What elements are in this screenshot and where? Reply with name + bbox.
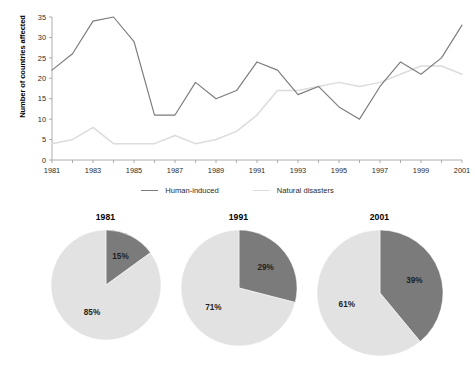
x-tick-label: 2001 [454,166,470,175]
pie-slice-label: 39% [406,276,423,285]
y-tick-label: 5 [42,135,46,144]
pie-title-1991: 1991 [229,212,249,222]
legend-label-natural-disasters: Natural disasters [277,186,334,195]
pie-svg-wrap-1991: 29%71% [180,229,298,351]
x-tick-label: 1989 [208,166,224,175]
pie-svg-1991: 29%71% [180,229,298,347]
y-tick-label: 15 [38,94,46,103]
pie-chart-1991: 1991 29%71% [180,212,298,351]
pie-chart-2001: 2001 39%61% [316,212,444,361]
y-tick-label: 35 [38,13,46,22]
x-tick-label: 1995 [331,166,347,175]
pie-svg-wrap-1981: 15%85% [50,229,162,345]
legend-swatch-natural-disasters [253,190,270,192]
pie-slice-label: 29% [257,263,274,272]
pie-chart-1981: 1981 15%85% [50,212,162,345]
x-tick-label: 1981 [44,166,60,175]
pie-title-2001: 2001 [370,212,390,222]
pie-charts-panel: 1981 15%85% 1991 29%71% 2001 39%61% [0,212,475,373]
line-chart-svg: 0510152025303519811983198519871989199119… [0,0,475,186]
pie-svg-1981: 15%85% [50,229,162,341]
y-tick-label: 0 [42,156,46,165]
x-tick-label: 1997 [372,166,388,175]
legend-label-human-induced: Human-induced [165,186,219,195]
legend-item-human-induced: Human-induced [141,186,219,195]
x-tick-label: 1993 [290,166,306,175]
legend-item-natural-disasters: Natural disasters [253,186,334,195]
pie-slice-label: 61% [338,300,355,309]
line-chart-panel: Number of countries affected 05101520253… [0,0,475,205]
pie-slice-label: 85% [83,308,100,317]
pie-title-1981: 1981 [96,212,116,222]
pie-svg-2001: 39%61% [316,229,444,357]
series-line-natural-disasters [52,66,462,144]
legend-swatch-human-induced [141,190,158,191]
series-line-human-induced [52,17,462,119]
chart-legend: Human-induced Natural disasters [0,186,475,195]
x-tick-label: 1991 [249,166,265,175]
x-tick-label: 1983 [85,166,101,175]
y-tick-label: 30 [38,33,46,42]
pie-svg-wrap-2001: 39%61% [316,229,444,361]
x-tick-label: 1999 [413,166,429,175]
x-tick-label: 1985 [126,166,142,175]
pie-slice-label: 71% [205,303,222,312]
y-tick-label: 10 [38,115,46,124]
x-tick-label: 1987 [167,166,183,175]
y-tick-label: 20 [38,74,46,83]
y-tick-label: 25 [38,54,46,63]
pie-slice-label: 15% [112,252,129,261]
